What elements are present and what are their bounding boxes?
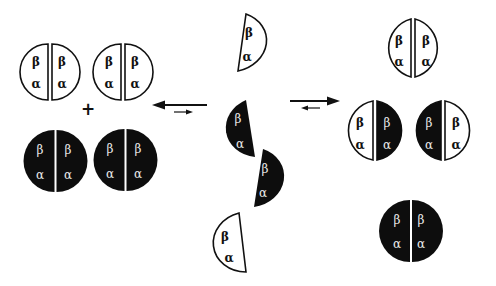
beta-label: β (135, 142, 142, 156)
alpha-label: α (425, 138, 433, 152)
white-tetramer-2: β α β α (93, 44, 153, 100)
beta-label: β (452, 116, 460, 130)
beta-label: β (221, 230, 229, 244)
beta-label: β (426, 116, 433, 130)
beta-label: β (262, 162, 269, 176)
arrow-right-icon (327, 97, 340, 106)
alpha-label: α (393, 237, 401, 251)
arrow-left-icon (152, 101, 165, 110)
alpha-label: α (355, 138, 364, 152)
black-tetramer: β α β α (379, 200, 443, 262)
white-tetramer: β α β α (389, 19, 438, 77)
beta-label: β (32, 55, 40, 69)
hybrid-tetramer-1: β α β α (348, 101, 401, 160)
plus-sign: + (81, 99, 95, 119)
beta-label: β (384, 116, 391, 130)
beta-label: β (58, 55, 66, 69)
beta-label: β (65, 143, 72, 157)
beta-label: β (356, 116, 364, 130)
alpha-label: α (134, 167, 142, 181)
arrow-left-small-icon (301, 106, 308, 111)
alpha-label: α (130, 77, 139, 91)
alpha-label: α (224, 251, 233, 265)
right-equilibrium-arrows (290, 97, 340, 111)
beta-label: β (418, 213, 425, 227)
alpha-label: α (242, 50, 251, 64)
alpha-label: α (236, 137, 244, 151)
beta-label: β (394, 213, 401, 227)
white-dimer-bottom: β α (213, 213, 246, 272)
black-tetramer-1: β α β α (24, 130, 88, 192)
beta-label: β (107, 142, 114, 156)
beta-label: β (235, 112, 242, 126)
beta-label: β (105, 55, 113, 69)
alpha-label: α (421, 55, 430, 69)
beta-label: β (131, 55, 139, 69)
black-dimer-1: β α (226, 100, 255, 157)
alpha-label: α (106, 167, 114, 181)
alpha-label: α (57, 77, 66, 91)
beta-label: β (37, 143, 44, 157)
alpha-label: α (259, 186, 267, 200)
alpha-label: α (31, 77, 40, 91)
beta-label: β (245, 26, 253, 40)
left-equilibrium-arrows (152, 101, 207, 115)
alpha-label: α (451, 138, 460, 152)
alpha-label: α (394, 55, 403, 69)
black-dimer-2: β α (254, 149, 284, 207)
white-tetramer-1: β α β α (20, 44, 80, 100)
beta-label: β (422, 34, 430, 48)
alpha-label: α (104, 77, 113, 91)
alpha-label: α (64, 168, 72, 182)
arrow-right-small-icon (186, 110, 193, 115)
beta-label: β (395, 34, 403, 48)
hybrid-tetramer-2: β α β α (416, 101, 469, 160)
white-dimer-top: β α (238, 14, 267, 71)
alpha-label: α (383, 138, 391, 152)
dimer-exchange-diagram: β α β α β α β α + β α β α β α β α (0, 0, 496, 286)
alpha-label: α (417, 237, 425, 251)
alpha-label: α (36, 168, 44, 182)
black-tetramer-2: β α β α (94, 129, 158, 191)
